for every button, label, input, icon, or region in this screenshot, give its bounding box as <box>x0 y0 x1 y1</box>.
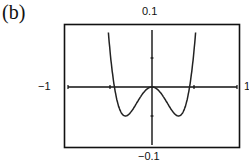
plot-area <box>0 0 249 164</box>
